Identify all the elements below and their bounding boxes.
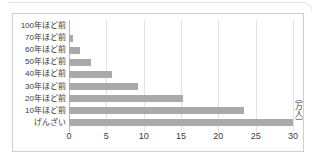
- bar: [69, 35, 73, 42]
- container-top-rule: [8, 2, 312, 11]
- bar-category-label: 20年ほど前: [25, 95, 66, 103]
- bar-category-label: 40年ほど前: [25, 70, 66, 78]
- x-tick-label: 0: [66, 132, 71, 141]
- bar-row: 50年ほど前: [69, 56, 293, 68]
- bar-row: 60年ほど前: [69, 44, 293, 56]
- bar: [69, 107, 244, 114]
- chart-page: 100年ほど前70年ほど前60年ほど前50年ほど前40年ほど前30年ほど前20年…: [0, 0, 316, 159]
- bar-category-label: 70年ほど前: [25, 34, 66, 42]
- bar: [69, 47, 80, 54]
- x-tick-label: 15: [176, 132, 186, 141]
- bar-row: 100年ほど前: [69, 20, 293, 32]
- x-tick-label: 20: [213, 132, 223, 141]
- bar-row: 70年ほど前: [69, 32, 293, 44]
- plot-area: 100年ほど前70年ほど前60年ほど前50年ほど前40年ほど前30年ほど前20年…: [69, 20, 293, 129]
- bar-row: 20年ほど前: [69, 93, 293, 105]
- bar-rows: 100年ほど前70年ほど前60年ほど前50年ほど前40年ほど前30年ほど前20年…: [69, 20, 293, 129]
- bar: [69, 83, 138, 90]
- bar: [69, 95, 183, 102]
- bar-category-label: 10年ほど前: [25, 107, 66, 115]
- bar: [69, 119, 293, 126]
- bar-category-label: 60年ほど前: [25, 46, 66, 54]
- x-tick-label: 10: [139, 132, 149, 141]
- bar: [69, 71, 112, 78]
- x-tick-label: 5: [104, 132, 109, 141]
- x-axis-tick-labels: 051015202530: [69, 132, 293, 146]
- chart-frame: 100年ほど前70年ほど前60年ほど前50年ほど前40年ほど前30年ほど前20年…: [12, 13, 304, 152]
- unit-label: （万人）: [289, 94, 301, 126]
- bar: [69, 59, 91, 66]
- bar-category-label: 30年ほど前: [25, 83, 66, 91]
- bar-row: げんざい: [69, 117, 293, 129]
- bar-row: 40年ほど前: [69, 68, 293, 80]
- x-tick-label: 30: [288, 132, 298, 141]
- bar-category-label: げんざい: [34, 119, 66, 127]
- bar-category-label: 100年ほど前: [21, 22, 66, 30]
- bar-row: 30年ほど前: [69, 81, 293, 93]
- bar-category-label: 50年ほど前: [25, 58, 66, 66]
- x-tick-label: 25: [251, 132, 261, 141]
- bar-row: 10年ほど前: [69, 105, 293, 117]
